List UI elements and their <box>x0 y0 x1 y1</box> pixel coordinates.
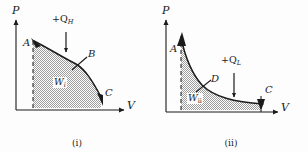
point-label-d: D <box>211 74 219 84</box>
work-label-ii: Wii <box>187 93 203 104</box>
heat-label-ql: +QL <box>221 55 241 66</box>
heat-label-ql-text: +Q <box>221 54 237 65</box>
pv-diagram-figure: P V +QH A B C Wi (i) <box>0 0 308 152</box>
y-axis-label-i: P <box>12 5 19 16</box>
panel-ii: P V +QL A D C Wii (ii) <box>154 0 308 152</box>
y-axis-label-ii: P <box>162 5 169 16</box>
direction-arrow-a-ii <box>177 32 186 46</box>
point-label-a-i: A <box>23 38 30 48</box>
point-label-b: B <box>88 49 95 59</box>
caption-ii: (ii) <box>225 138 238 148</box>
work-label-i-text: W <box>54 76 64 87</box>
point-label-c-ii: C <box>265 85 273 95</box>
heat-label-qh: +QH <box>52 14 73 25</box>
work-label-ii-text: W <box>188 92 198 103</box>
panel-i: P V +QH A B C Wi (i) <box>0 0 154 152</box>
caption-i: (i) <box>72 138 82 148</box>
heat-label-qh-sub: H <box>68 18 74 26</box>
work-label-ii-sub: ii <box>198 97 202 105</box>
panel-i-graphic <box>0 0 154 152</box>
point-label-c-i: C <box>105 88 113 98</box>
heat-label-qh-text: +Q <box>52 13 68 24</box>
work-label-i-sub: i <box>64 81 66 89</box>
x-axis-label-ii: V <box>281 102 289 113</box>
heat-label-ql-sub: L <box>237 59 241 67</box>
point-label-a-ii: A <box>170 44 177 54</box>
panel-ii-graphic <box>154 0 308 152</box>
work-label-i: Wi <box>53 77 67 88</box>
x-axis-label-i: V <box>127 100 135 111</box>
